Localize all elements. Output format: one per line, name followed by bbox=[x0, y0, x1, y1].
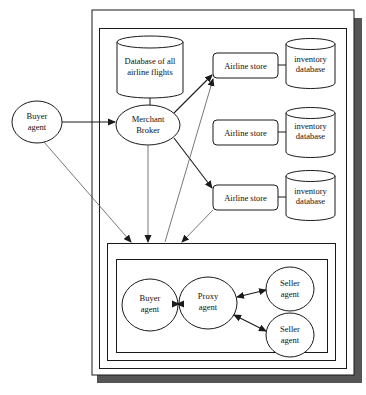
airline-store-2: Airline store bbox=[213, 120, 278, 145]
buyer-inner-label-1: Buyer bbox=[140, 293, 161, 303]
seller1-label-1: Seller bbox=[280, 278, 300, 288]
inventory-db-2: inventory database bbox=[286, 108, 335, 158]
proxy-agent-node: Proxy agent bbox=[179, 277, 237, 329]
proxy-label-1: Proxy bbox=[198, 291, 219, 301]
buyer-agent-inner-node: Buyer agent bbox=[122, 279, 178, 331]
seller-agent-2-node: Seller agent bbox=[266, 313, 314, 357]
db-all-label-1: Database of all bbox=[125, 56, 177, 66]
airline-store-1: Airline store bbox=[213, 53, 278, 78]
store3-label: Airline store bbox=[224, 193, 267, 203]
inv3-label-1: inventory bbox=[294, 186, 327, 196]
store2-label: Airline store bbox=[224, 128, 267, 138]
seller-agent-1-node: Seller agent bbox=[266, 267, 314, 311]
inv2-label-2: database bbox=[296, 131, 325, 141]
store1-label: Airline store bbox=[224, 61, 267, 71]
inv1-label-2: database bbox=[296, 64, 325, 74]
buyer-outer-label-2: agent bbox=[28, 122, 47, 132]
seller2-label-2: agent bbox=[281, 335, 300, 345]
proxy-label-2: agent bbox=[199, 302, 218, 312]
airline-store-3: Airline store bbox=[213, 185, 278, 210]
broker-label-2: Broker bbox=[136, 125, 160, 135]
inv3-label-2: database bbox=[296, 196, 325, 206]
database-all-flights: Database of all airline flights bbox=[117, 36, 183, 98]
broker-label-1: Merchant bbox=[132, 114, 165, 124]
inv1-label-1: inventory bbox=[294, 54, 327, 64]
inv2-label-1: inventory bbox=[294, 121, 327, 131]
inventory-db-1: inventory database bbox=[286, 39, 335, 89]
db-all-label-2: airline flights bbox=[127, 67, 173, 77]
buyer-inner-label-2: agent bbox=[141, 304, 160, 314]
buyer-outer-label-1: Buyer bbox=[27, 111, 48, 121]
inventory-db-3: inventory database bbox=[286, 171, 335, 221]
seller1-label-2: agent bbox=[281, 289, 300, 299]
seller2-label-1: Seller bbox=[280, 324, 300, 334]
buyer-agent-outer-node: Buyer agent bbox=[12, 101, 62, 143]
agent-marketplace-diagram: Database of all airline flights Merchant… bbox=[0, 0, 366, 395]
merchant-broker-node: Merchant Broker bbox=[116, 105, 180, 145]
